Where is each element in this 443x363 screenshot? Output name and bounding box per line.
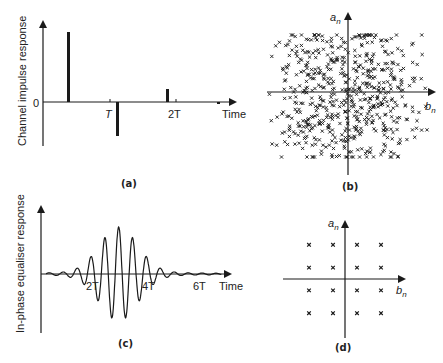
a-impulse-main xyxy=(67,32,70,102)
b-y-label: an xyxy=(330,11,341,26)
a-impulse-negative xyxy=(116,102,119,136)
panel-c-equaliser-response: 2T 4T 6T Time In-phase equaliser respons… xyxy=(14,194,243,349)
figure: 0 T 2T Time Channel impulse response (a)… xyxy=(0,0,443,363)
d-x-label: bn xyxy=(396,284,407,299)
b-caption: (b) xyxy=(342,181,358,192)
a-tick-label-T: T xyxy=(105,108,113,120)
panel-a-channel-impulse-response: 0 T 2T Time Channel impulse response (a) xyxy=(16,16,246,189)
panel-d-equalised-constellation: an bn (d) xyxy=(283,217,407,353)
c-response-curve xyxy=(46,227,221,318)
d-caption: (d) xyxy=(335,342,351,353)
c-tick-label-4T: 4T xyxy=(142,280,155,292)
c-tick-label-2T: 2T xyxy=(86,280,99,292)
a-impulse-small xyxy=(166,89,169,102)
a-impulse-tiny xyxy=(217,102,220,104)
b-x-label: bn xyxy=(425,100,436,115)
c-y-label: In-phase equaliser response xyxy=(14,194,26,333)
d-y-label: an xyxy=(328,217,339,232)
panel-b-noisy-constellation: an bn (b) xyxy=(267,11,436,192)
a-x-label: Time xyxy=(222,108,246,120)
c-caption: (c) xyxy=(118,338,133,349)
a-tick-label-2T: 2T xyxy=(168,108,181,120)
a-caption: (a) xyxy=(121,178,137,189)
c-tick-label-6T: 6T xyxy=(193,280,206,292)
a-y-label: Channel impulse response xyxy=(16,16,28,146)
a-zero-label: 0 xyxy=(33,97,39,109)
c-x-label: Time xyxy=(219,280,243,292)
